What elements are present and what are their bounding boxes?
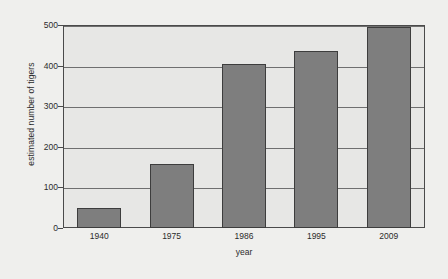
bars-layer [63, 25, 425, 228]
y-axis-title: estimated number of tigers [22, 0, 40, 228]
x-tick-label: 2009 [353, 231, 425, 241]
bar-1986[interactable] [222, 64, 266, 228]
bar-1995[interactable] [294, 51, 338, 228]
y-tick-label: 500 [24, 20, 58, 30]
x-tick-label: 1975 [135, 231, 207, 241]
bar-slot [63, 25, 135, 228]
bar-2009[interactable] [367, 27, 411, 228]
bar-slot [353, 25, 425, 228]
y-tick-label: 300 [24, 101, 58, 111]
y-tick-mark [58, 228, 63, 229]
bar-slot [280, 25, 352, 228]
x-tick-label: 1986 [208, 231, 280, 241]
bar-1975[interactable] [150, 164, 194, 228]
x-axis-title: year [63, 247, 425, 257]
bar-slot [208, 25, 280, 228]
bar-1940[interactable] [77, 208, 121, 228]
x-tick-label: 1940 [63, 231, 135, 241]
bar-chart-figure: estimated number of tigers 0100200300400… [0, 0, 448, 279]
bar-slot [135, 25, 207, 228]
x-axis-ticks: 19401975198619952009 [63, 231, 425, 241]
y-tick-label: 200 [24, 142, 58, 152]
y-tick-label: 100 [24, 182, 58, 192]
x-tick-label: 1995 [280, 231, 352, 241]
y-tick-label: 0 [24, 223, 58, 233]
y-tick-label: 400 [24, 61, 58, 71]
